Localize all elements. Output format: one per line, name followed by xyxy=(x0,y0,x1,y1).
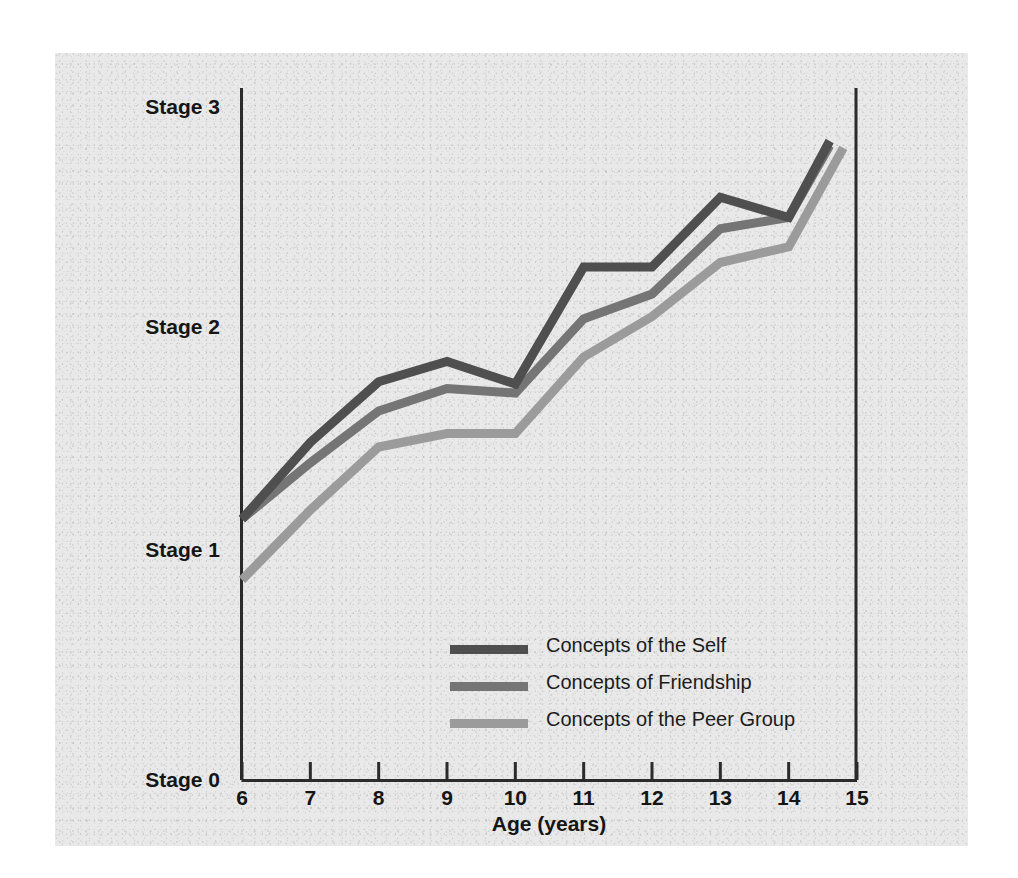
legend-label-0: Concepts of the Self xyxy=(546,634,726,657)
x-tick-label-13: 13 xyxy=(690,786,750,810)
x-tick-label-15: 15 xyxy=(827,786,887,810)
y-tick-label-stage-3: Stage 3 xyxy=(80,95,220,119)
x-tick-label-6: 6 xyxy=(212,786,272,810)
legend-label-1: Concepts of Friendship xyxy=(546,671,752,694)
x-tick-label-8: 8 xyxy=(349,786,409,810)
legend-swatch-2 xyxy=(450,719,528,728)
chart-plot-area xyxy=(0,0,1018,878)
y-tick-label-stage-1: Stage 1 xyxy=(80,538,220,562)
legend-label-2: Concepts of the Peer Group xyxy=(546,708,795,731)
x-tick-label-10: 10 xyxy=(485,786,545,810)
x-tick-label-12: 12 xyxy=(622,786,682,810)
x-tick-label-14: 14 xyxy=(759,786,819,810)
x-axis-ticks xyxy=(242,762,857,780)
y-tick-label-stage-0: Stage 0 xyxy=(80,768,220,792)
legend-swatch-0 xyxy=(450,645,528,654)
chart-series-lines xyxy=(242,141,843,580)
chart-figure: Stage 3 Stage 2 Stage 1 Stage 0 67891011… xyxy=(0,0,1018,878)
x-axis-title: Age (years) xyxy=(399,812,699,836)
x-tick-label-7: 7 xyxy=(280,786,340,810)
x-tick-label-11: 11 xyxy=(554,786,614,810)
x-tick-label-9: 9 xyxy=(417,786,477,810)
legend-swatch-1 xyxy=(450,682,528,691)
series-line-concepts-of-the-self xyxy=(242,141,830,519)
y-tick-label-stage-2: Stage 2 xyxy=(80,315,220,339)
